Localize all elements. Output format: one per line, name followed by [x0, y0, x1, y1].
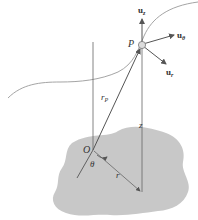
point-p [138, 41, 145, 48]
ground-plane [53, 127, 189, 216]
space-curve [8, 2, 198, 98]
point-p-label: P [127, 38, 134, 49]
position-vector-label: rP [101, 92, 109, 103]
height-z-label: z [138, 120, 143, 130]
unit-r-label: ur [166, 67, 174, 78]
radius-label: r [116, 170, 120, 180]
unit-vector-r [143, 46, 166, 64]
unit-vector-theta [143, 35, 174, 44]
origin-label: O [83, 144, 90, 155]
theta-label: θ [90, 159, 95, 169]
unit-theta-label: uθ [177, 30, 186, 41]
unit-z-label: uz [138, 5, 146, 16]
cylindrical-coordinates-diagram: P uz uθ ur rP z O θ r [0, 0, 198, 220]
